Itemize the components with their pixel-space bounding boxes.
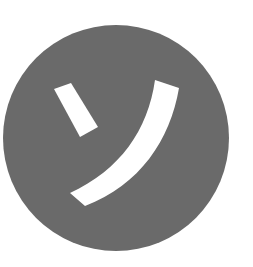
badge-circle: [3, 25, 229, 251]
katakana-so-icon: [0, 0, 253, 267]
katakana-so-badge: ソ: [0, 0, 253, 267]
